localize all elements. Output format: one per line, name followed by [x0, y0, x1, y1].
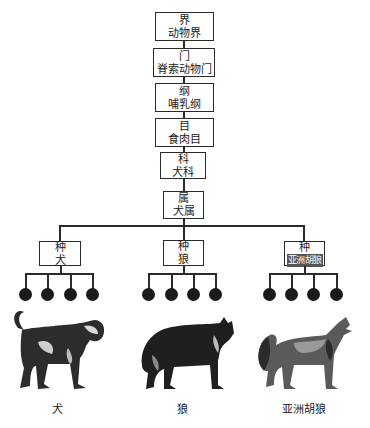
rank-name: 食肉目 [168, 133, 201, 146]
caption-wolf: 狼 [142, 400, 222, 416]
subspecies-dot [41, 288, 54, 301]
subspecies-drop [25, 273, 27, 289]
species-rank-label: 种 [178, 240, 189, 253]
rank-name: 犬属 [173, 205, 195, 218]
species-branch-connector [59, 225, 304, 227]
subspecies-stem [183, 266, 185, 273]
species-rank-label: 种 [55, 241, 66, 254]
subspecies-drop [313, 273, 315, 289]
subspecies-bar [25, 273, 94, 275]
rank-label: 纲 [179, 85, 190, 98]
subspecies-dot [165, 288, 178, 301]
subspecies-dot [209, 288, 222, 301]
species-drop-middle [183, 225, 185, 241]
subspecies-dot [307, 288, 320, 301]
subspecies-dot [285, 288, 298, 301]
subspecies-drop [291, 273, 293, 289]
species-name: 犬 [55, 254, 66, 267]
subspecies-drop [269, 273, 271, 289]
subspecies-drop [215, 273, 217, 289]
subspecies-dot [64, 288, 77, 301]
subspecies-dot [330, 288, 343, 301]
species-box-wolf: 种 狼 [163, 240, 204, 266]
subspecies-drop [171, 273, 173, 289]
rank-box-phylum: 门 脊索动物门 [153, 48, 215, 77]
subspecies-dot [86, 288, 99, 301]
rank-label: 界 [179, 14, 190, 27]
species-box-dog: 种 犬 [39, 241, 81, 266]
rank-box-kingdom: 界 动物界 [155, 12, 214, 41]
species-drop-left [59, 225, 61, 241]
rank-name: 犬科 [172, 166, 194, 179]
rank-label: 属 [178, 192, 189, 205]
species-name: 亚洲胡狼 [287, 254, 323, 267]
rank-label: 门 [179, 50, 190, 63]
rank-box-family: 科 犬科 [160, 152, 206, 179]
subspecies-drop [148, 273, 150, 289]
rank-name: 脊索动物门 [157, 63, 212, 76]
rank-box-genus: 属 犬属 [163, 191, 204, 219]
rank-name: 哺乳纲 [168, 98, 201, 111]
subspecies-dot [142, 288, 155, 301]
rank-name: 动物界 [168, 27, 201, 40]
subspecies-bar [269, 273, 338, 275]
subspecies-stem [60, 266, 62, 273]
caption-dog: 犬 [17, 400, 97, 416]
subspecies-stem [304, 266, 306, 273]
rank-box-order: 目 食肉目 [155, 118, 214, 147]
rank-box-class: 纲 哺乳纲 [155, 83, 214, 112]
subspecies-drop [47, 273, 49, 289]
species-rank-label: 种 [299, 241, 310, 254]
subspecies-drop [92, 273, 94, 289]
subspecies-dot [263, 288, 276, 301]
species-box-jackal: 种 亚洲胡狼 [284, 241, 325, 266]
subspecies-bar [148, 273, 217, 275]
wolf-illustration [138, 315, 238, 393]
caption-jackal: 亚洲胡狼 [264, 400, 344, 416]
species-drop-right [303, 225, 305, 241]
rank-label: 科 [178, 153, 189, 166]
subspecies-drop [336, 273, 338, 289]
subspecies-dot [187, 288, 200, 301]
subspecies-dot [19, 288, 32, 301]
subspecies-drop [70, 273, 72, 289]
species-name: 狼 [178, 253, 189, 266]
rank-label: 目 [179, 120, 190, 133]
dog-illustration [8, 308, 108, 393]
jackal-illustration [254, 315, 354, 393]
subspecies-drop [193, 273, 195, 289]
